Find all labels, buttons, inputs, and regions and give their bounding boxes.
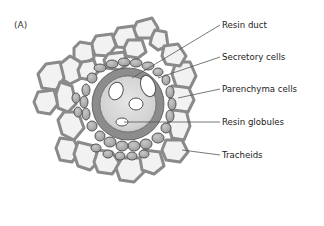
label-secretory-cells: Secretory cells xyxy=(222,52,285,62)
resin-duct-diagram: (A) Resin duct Secretory cells Parenchym… xyxy=(0,0,324,226)
label-resin-globules: Resin globules xyxy=(222,117,284,127)
label-parenchyma-cells: Parenchyma cells xyxy=(222,84,297,94)
label-resin-duct: Resin duct xyxy=(222,20,267,30)
cross-section-drawing xyxy=(0,0,324,226)
panel-label: (A) xyxy=(14,20,27,30)
label-tracheids: Tracheids xyxy=(222,150,263,160)
